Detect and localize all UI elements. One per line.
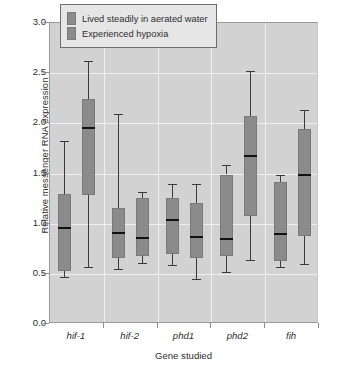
cap-upper xyxy=(60,141,69,142)
cap-lower xyxy=(138,263,147,264)
cap-lower xyxy=(60,277,69,278)
whisker-upper xyxy=(172,184,173,198)
cap-upper xyxy=(114,114,123,115)
whisker-upper xyxy=(118,114,119,207)
cap-lower xyxy=(276,267,285,268)
x-tick-mark xyxy=(264,323,265,328)
whisker-upper xyxy=(304,110,305,129)
box-plot-item xyxy=(298,23,311,322)
box-plot-item xyxy=(112,23,125,322)
median-line xyxy=(166,219,179,221)
whisker-upper xyxy=(280,175,281,182)
whisker-upper xyxy=(64,141,65,193)
median-line xyxy=(58,227,71,229)
cap-lower xyxy=(300,264,309,265)
y-tick-label: 1.0 xyxy=(6,217,46,228)
cap-lower xyxy=(192,279,201,280)
box-iqr xyxy=(220,175,233,256)
box-plot-item xyxy=(220,23,233,322)
y-tick-mark xyxy=(43,323,49,324)
median-line xyxy=(298,174,311,176)
cap-upper xyxy=(300,110,309,111)
legend-item-aerated: Lived steadily in aerated water xyxy=(67,12,208,25)
chart-legend: Lived steadily in aerated water Experien… xyxy=(60,4,217,48)
whisker-lower xyxy=(250,216,251,260)
box-iqr xyxy=(244,116,257,215)
whisker-lower xyxy=(88,195,89,267)
plot-area xyxy=(49,22,318,323)
whisker-lower xyxy=(118,258,119,269)
legend-item-hypoxia: Experienced hypoxia xyxy=(67,27,208,40)
whisker-lower xyxy=(226,256,227,272)
median-line xyxy=(244,155,257,157)
box-iqr xyxy=(298,129,311,235)
y-tick-label: 1.5 xyxy=(6,167,46,178)
median-line xyxy=(220,238,233,240)
box-iqr xyxy=(274,182,287,261)
box-iqr xyxy=(190,203,203,258)
median-line xyxy=(190,236,203,238)
whisker-upper xyxy=(226,165,227,174)
gridline-vertical xyxy=(158,23,159,322)
box-plot-item xyxy=(190,23,203,322)
whisker-upper xyxy=(250,71,251,116)
cap-lower xyxy=(246,260,255,261)
whisker-lower xyxy=(304,236,305,264)
cap-upper xyxy=(276,175,285,176)
cap-upper xyxy=(246,71,255,72)
whisker-lower xyxy=(142,256,143,263)
cap-upper xyxy=(222,165,231,166)
box-iqr xyxy=(82,99,95,194)
x-tick-mark xyxy=(210,323,211,328)
cap-lower xyxy=(84,267,93,268)
x-tick-mark xyxy=(157,323,158,328)
cap-upper xyxy=(84,61,93,62)
y-tick-label: 0.5 xyxy=(6,267,46,278)
box-iqr xyxy=(166,198,179,254)
box-plot-item xyxy=(274,23,287,322)
whisker-upper xyxy=(196,184,197,203)
y-tick-label: 0.0 xyxy=(6,317,46,328)
cap-lower xyxy=(222,272,231,273)
legend-swatch-aerated xyxy=(67,12,76,25)
x-tick-mark xyxy=(103,323,104,328)
box-plot-item xyxy=(136,23,149,322)
gridline-vertical xyxy=(265,23,266,322)
whisker-lower xyxy=(172,254,173,265)
box-plot-item xyxy=(244,23,257,322)
median-line xyxy=(136,237,149,239)
box-plot-item xyxy=(82,23,95,322)
gridline-vertical xyxy=(104,23,105,322)
x-tick-mark xyxy=(318,323,319,328)
cap-upper xyxy=(138,192,147,193)
cap-lower xyxy=(168,265,177,266)
legend-label-hypoxia: Experienced hypoxia xyxy=(82,29,168,39)
cap-lower xyxy=(114,269,123,270)
y-axis-title: Relative messenger RNA expression xyxy=(39,26,50,286)
legend-label-aerated: Lived steadily in aerated water xyxy=(82,14,208,24)
y-tick-label: 2.0 xyxy=(6,116,46,127)
median-line xyxy=(274,233,287,235)
gridline-vertical xyxy=(211,23,212,322)
box-plot-item xyxy=(166,23,179,322)
median-line xyxy=(82,127,95,129)
box-plot-item xyxy=(58,23,71,322)
cap-upper xyxy=(192,184,201,185)
x-axis-title: Gene studied xyxy=(49,350,318,361)
box-iqr xyxy=(58,194,71,271)
whisker-upper xyxy=(88,61,89,99)
median-line xyxy=(112,232,125,234)
y-tick-label: 3.0 xyxy=(6,16,46,27)
y-tick-label: 2.5 xyxy=(6,66,46,77)
box-iqr xyxy=(136,198,149,256)
legend-swatch-hypoxia xyxy=(67,27,76,40)
whisker-lower xyxy=(196,258,197,279)
x-tick-label: fih xyxy=(256,330,326,341)
cap-upper xyxy=(168,184,177,185)
boxplot-figure: Relative messenger RNA expression 0.00.5… xyxy=(0,0,343,378)
